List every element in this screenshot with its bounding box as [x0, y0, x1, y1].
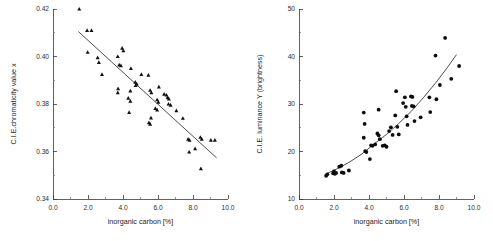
data-point [377, 133, 381, 137]
data-point [157, 85, 161, 89]
data-point [187, 150, 191, 154]
data-point [434, 97, 438, 101]
fit-line-group [78, 32, 216, 158]
x-tick-label: 8.0 [434, 204, 443, 211]
fit-line [78, 32, 216, 158]
axes-group: 0.02.04.06.08.010.00.340.360.380.400.42 [36, 5, 235, 211]
data-point [199, 167, 203, 171]
data-point [97, 60, 101, 64]
x-tick-label: 10.0 [222, 204, 235, 211]
y-tick-label: 20 [288, 148, 296, 155]
data-point [412, 104, 416, 108]
x-tick-label: 4.0 [364, 204, 373, 211]
y-tick-label: 40 [288, 53, 296, 60]
data-point [362, 111, 366, 115]
data-point [193, 147, 197, 151]
data-point [368, 157, 372, 161]
axes-group: 0.02.04.06.08.010.01020304050 [288, 5, 481, 211]
data-point [342, 171, 346, 175]
data-point [395, 125, 399, 129]
data-point [77, 7, 81, 11]
data-points-group [77, 7, 217, 170]
data-points-group [324, 36, 461, 178]
y-tick-label: 0.36 [36, 148, 49, 155]
data-point [373, 142, 377, 146]
data-point [378, 137, 382, 141]
fit-curve [325, 55, 456, 175]
data-point [401, 101, 405, 105]
data-point [128, 89, 132, 93]
data-point [389, 125, 393, 129]
data-point [391, 133, 395, 137]
data-point [406, 123, 410, 127]
data-point [387, 129, 391, 133]
data-point [362, 136, 366, 140]
fit-line-group [325, 55, 456, 175]
y-tick-label: 10 [288, 195, 296, 202]
y-tick-label: 0.42 [36, 5, 49, 12]
data-point [347, 169, 351, 173]
x-tick-label: 6.0 [153, 204, 162, 211]
data-point [428, 110, 432, 114]
data-point [213, 138, 217, 142]
x-tick-label: 0.0 [294, 204, 303, 211]
x-tick-label: 10.0 [468, 204, 481, 211]
x-tick-label: 4.0 [118, 204, 127, 211]
y-axis-title: C.I.E. luminance Y (brightness) [255, 54, 264, 153]
data-point [116, 86, 120, 90]
y-tick-label: 0.34 [36, 195, 49, 202]
data-point [174, 109, 178, 113]
data-point [443, 36, 447, 40]
data-point [434, 54, 438, 58]
x-tick-label: 8.0 [188, 204, 197, 211]
data-point [127, 110, 131, 114]
data-point [100, 72, 104, 76]
data-point [116, 91, 120, 95]
y-tick-label: 30 [288, 100, 296, 107]
data-point [90, 28, 94, 32]
data-point [116, 54, 120, 58]
data-point [149, 116, 153, 120]
data-point [129, 66, 133, 70]
y-axis-title: C.I.E.chromaticity value x [9, 63, 18, 144]
x-tick-label: 6.0 [399, 204, 408, 211]
data-point [404, 105, 408, 109]
y-tick-label: 0.38 [36, 100, 49, 107]
data-point [96, 56, 100, 60]
chart-panel-right: 0.02.04.06.08.010.01020304050inorganic c… [246, 0, 493, 241]
data-point [126, 96, 130, 100]
data-point [393, 114, 397, 118]
data-point [403, 95, 407, 99]
y-tick-label: 50 [288, 5, 296, 12]
data-point [411, 95, 415, 99]
x-tick-label: 0.0 [48, 204, 57, 211]
data-point [363, 122, 367, 126]
data-point [405, 114, 409, 118]
data-point [146, 73, 150, 77]
figure-container: 0.02.04.06.08.010.00.340.360.380.400.42i… [0, 0, 493, 241]
data-point [86, 50, 90, 54]
data-point [419, 115, 423, 119]
data-point [377, 108, 381, 112]
data-point [449, 77, 453, 81]
data-point [397, 133, 401, 137]
data-point [334, 171, 338, 175]
data-point [364, 150, 368, 154]
data-point [413, 119, 417, 123]
data-point [339, 164, 343, 168]
chart-left-svg: 0.02.04.06.08.010.00.340.360.380.400.42i… [0, 0, 247, 241]
y-tick-label: 0.40 [36, 53, 49, 60]
chart-panel-left: 0.02.04.06.08.010.00.340.360.380.400.42i… [0, 0, 247, 241]
data-point [325, 172, 329, 176]
x-axis-title: inorganic carbon [%] [108, 217, 174, 226]
data-point [385, 145, 389, 149]
x-tick-label: 2.0 [83, 204, 92, 211]
data-point [85, 28, 89, 32]
data-point [139, 72, 143, 76]
x-tick-label: 2.0 [329, 204, 338, 211]
data-point [457, 64, 461, 68]
data-point [209, 138, 213, 142]
data-point [427, 95, 431, 99]
data-point [181, 116, 185, 120]
x-axis-title: inorganic carbon [%] [354, 217, 420, 226]
